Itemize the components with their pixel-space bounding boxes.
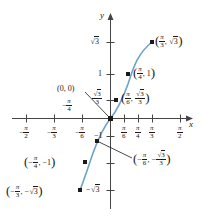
neg-pi-over-4-annotation: −π4 <box>62 98 72 114</box>
right-paren: ) <box>151 65 155 80</box>
radicand: 3 <box>95 184 100 194</box>
neg-pi6-leader-line <box>97 141 132 158</box>
radical-sign: √3 <box>29 187 38 196</box>
ytick-label-sqrt3: √3 <box>90 38 99 46</box>
denominator: 4 <box>135 133 141 140</box>
comma: , <box>20 187 22 196</box>
comma: , <box>38 158 40 167</box>
comma: , <box>147 155 149 164</box>
point-label-pi3-sqrt3: (π3, √3) <box>155 34 183 50</box>
denominator: 4 <box>137 74 143 81</box>
denominator: 3 <box>15 192 21 199</box>
xtick-label-pi-over-2: π2 <box>177 125 183 141</box>
denominator: 2 <box>23 133 29 140</box>
denominator: 3 <box>135 99 145 106</box>
point-pi6-sqrt3o3 <box>114 98 118 102</box>
point-pi4-1 <box>126 72 130 76</box>
denominator: 3 <box>159 42 165 49</box>
right-paren: ) <box>178 33 182 48</box>
denominator: 6 <box>121 133 127 140</box>
ytick-label-neg-sqrt3: −√3 <box>86 186 100 194</box>
denominator: 3 <box>156 160 166 167</box>
comma: , <box>165 37 167 46</box>
point-negpi4-neg1 <box>83 160 87 164</box>
left-paren: ( <box>24 154 28 169</box>
x-axis-label: x <box>189 120 193 129</box>
point-negpi3-negsqrt3 <box>78 188 82 192</box>
denominator: 4 <box>33 163 39 170</box>
xtick-label-pi-over-3: π3 <box>149 125 155 141</box>
numerator: √3 <box>156 152 166 160</box>
denominator: 2 <box>177 133 183 140</box>
denominator: 3 <box>92 99 102 106</box>
numerator: √3 <box>135 91 145 99</box>
point-label-pi6-sqrt3-over-3: (π6, √33) <box>121 91 150 107</box>
point-label-pi4-1: (π4, 1) <box>133 66 155 82</box>
denominator: 6 <box>125 99 131 106</box>
y-axis-arrow <box>108 13 114 20</box>
origin-point-label: (0, 0) <box>57 85 74 93</box>
data-points <box>78 40 154 192</box>
y-axis-label: y <box>100 11 104 20</box>
radical-sign: √3 <box>90 38 99 46</box>
left-paren: ( <box>133 151 137 166</box>
xtick-label-neg-pi-over-6: −π6 <box>75 125 85 141</box>
right-paren: ) <box>145 90 149 105</box>
ytick-label-neg-one: −1 <box>94 132 103 140</box>
tangent-function-graph: y x −π2 −π3 −π6 π6 π4 π3 π2 √3 1 √33 −1 … <box>0 0 202 217</box>
comma: , <box>131 94 133 103</box>
ytick-label-sqrt3-over-3: √33 <box>92 91 102 107</box>
point-label-negpi3-negsqrt3: (−π3, −√3) <box>6 184 43 200</box>
point-label-negpi4-neg1: (−π4, −1) <box>24 155 55 171</box>
radical-sign: √3 <box>169 37 178 46</box>
denominator: 6 <box>79 133 85 140</box>
right-paren: ) <box>51 154 55 169</box>
radicand: 3 <box>94 36 99 46</box>
right-paren: ) <box>38 183 42 198</box>
denominator: 4 <box>66 106 72 113</box>
point-pi3-sqrt3 <box>150 40 154 44</box>
xtick-label-pi-over-4: π4 <box>135 125 141 141</box>
denominator: 6 <box>142 160 148 167</box>
denominator: 3 <box>51 133 57 140</box>
point-label-negpi6-negsqrt3-over-3: (−π6, −√33) <box>133 152 171 168</box>
radical-sign: √3 <box>91 186 100 194</box>
right-paren: ) <box>166 151 170 166</box>
comma: , <box>143 69 145 78</box>
xtick-label-pi-over-6: π6 <box>121 125 127 141</box>
denominator: 3 <box>149 133 155 140</box>
xtick-label-neg-pi-over-3: −π3 <box>47 125 57 141</box>
point-origin <box>108 116 113 121</box>
xtick-label-neg-pi-over-2: −π2 <box>19 125 29 141</box>
left-paren: ( <box>6 183 10 198</box>
ytick-label-one: 1 <box>98 70 102 78</box>
numerator: √3 <box>92 91 102 99</box>
